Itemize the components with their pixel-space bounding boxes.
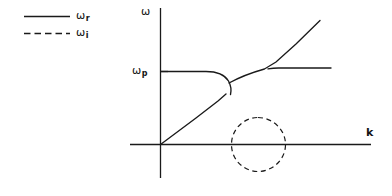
axes-group (130, 8, 371, 178)
legend-label-omega-i: ωi (76, 27, 88, 40)
legend-label-omega-r-subscript: r (86, 14, 90, 23)
legend-label-omega-i-subscript: i (86, 31, 89, 40)
y-axis-label: ω (141, 6, 150, 17)
chart-canvas (0, 0, 392, 196)
y-tick-label-symbol: ω (132, 64, 141, 77)
y-tick-label-subscript: p (142, 69, 148, 78)
legend-label-omega-r-symbol: ω (76, 9, 85, 22)
y-tick-label-omega-p: ωp (132, 65, 147, 78)
dispersion-relation-figure: ωr ωi ω ωp k (0, 0, 392, 196)
legend-label-omega-i-symbol: ω (76, 26, 85, 39)
series-upper-branch (229, 21, 320, 84)
x-axis-label: k (366, 127, 373, 138)
series-plasma-plateau (161, 72, 231, 95)
legend-group (24, 17, 70, 34)
series-acoustic-branch (161, 94, 227, 145)
legend-label-omega-r: ωr (76, 10, 90, 23)
series-flat-branch (268, 68, 331, 69)
